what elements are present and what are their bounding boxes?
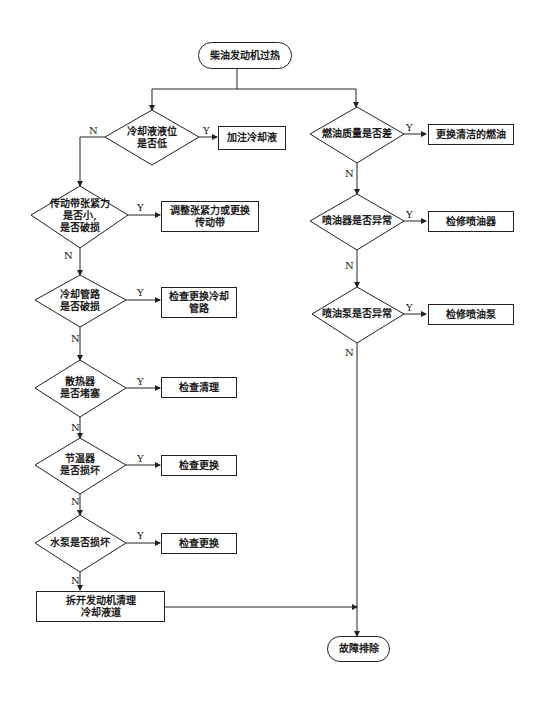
yes-label: Y (406, 210, 413, 220)
yes-label: Y (137, 531, 144, 541)
start-label: 柴油发动机过热 (210, 50, 280, 62)
no-label: N (71, 423, 80, 433)
action-repair-injector: 检修喷油器 (428, 211, 514, 232)
decision-radiator: 散热器 是否堵塞 (40, 368, 120, 408)
no-label: N (89, 126, 98, 136)
action-add-coolant: 加注冷却液 (218, 126, 286, 150)
decision-coolant-pipe: 冷却管路 是否破损 (40, 281, 120, 321)
action-replace-fuel: 更换清洁的燃油 (428, 124, 514, 145)
no-label: N (345, 169, 354, 179)
end-terminal: 故障排除 (327, 636, 390, 662)
action-replace-thermostat: 检查更换 (161, 455, 237, 476)
decision-thermostat: 节温器 是否损坏 (40, 445, 120, 485)
no-label: N (345, 348, 354, 358)
yes-label: Y (137, 454, 144, 464)
action-clean-radiator: 检查清理 (161, 377, 237, 398)
yes-label: Y (137, 203, 144, 213)
yes-label: Y (137, 288, 144, 298)
action-replace-water-pump: 检查更换 (161, 533, 237, 554)
no-label: N (71, 576, 80, 586)
decision-belt: 传动带张紧力 是否小, 是否破损 (38, 192, 122, 240)
yes-label: Y (406, 303, 413, 313)
decision-water-pump: 水泵是否损坏 (38, 533, 122, 553)
decision-fuel-quality: 燃油质量是否差 (314, 125, 400, 143)
no-label: N (64, 251, 73, 261)
no-label: N (345, 261, 354, 271)
action-clean-coolant-passages: 拆开发动机清理 冷却液道 (36, 591, 165, 622)
yes-label: Y (137, 377, 144, 387)
end-label: 故障排除 (339, 643, 379, 655)
no-label: N (71, 334, 80, 344)
action-adjust-belt: 调整张紧力或更换 传动带 (161, 201, 259, 232)
no-label: N (71, 497, 80, 507)
start-terminal: 柴油发动机过热 (198, 42, 292, 69)
decision-injector: 喷油器是否异常 (314, 212, 400, 230)
action-repair-injection-pump: 检修喷油泵 (428, 304, 514, 325)
yes-label: Y (406, 123, 413, 133)
action-replace-pipe: 检查更换冷却 管路 (161, 287, 237, 318)
decision-coolant-level: 冷却液液位 是否低 (110, 118, 194, 158)
yes-label: Y (203, 126, 210, 136)
decision-injection-pump: 喷油泵是否异常 (314, 305, 400, 323)
